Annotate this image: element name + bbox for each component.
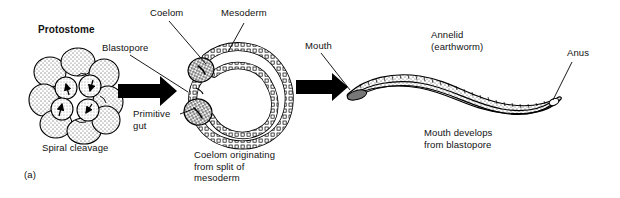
label-primitive-gut: Primitive gut [133,108,170,131]
earthworm-body [346,75,561,115]
label-mesoderm: Mesoderm [221,7,267,19]
caption-coelom-origin: Coelom originating from split of mesoder… [194,149,275,184]
right-arrow-icon-1 [118,76,177,106]
page-title: Protostome [38,24,95,36]
label-mouth: Mouth [305,40,332,52]
leader-coelom [169,21,206,64]
caption-mouth-develops: Mouth develops from blastopore [424,127,492,150]
blastula-spiral-cleavage [29,48,123,144]
label-blastopore: Blastopore [102,42,148,54]
caption-spiral-cleavage: Spiral cleavage [42,142,108,154]
label-coelom: Coelom [150,7,183,19]
panel-marker: (a) [24,169,36,181]
label-annelid: Annelid (earthworm) [431,29,483,52]
leader-anus [553,62,572,100]
figure-canvas: Protostome Blastopore Coelom Mesoderm Pr… [0,0,620,198]
coelom-cross-section [181,47,289,145]
label-anus: Anus [567,47,589,59]
